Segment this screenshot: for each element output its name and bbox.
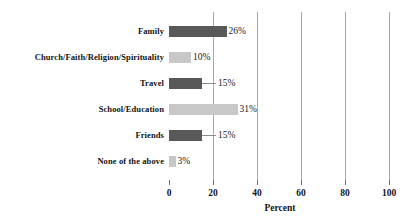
- category-label-church: Church/Faith/Religion/Spirituality: [0, 52, 164, 62]
- value-label-friends: 15%: [216, 130, 235, 141]
- tick-mark-100: [389, 180, 390, 185]
- category-label-family: Family: [0, 26, 164, 36]
- category-label-friends: Friends: [0, 130, 164, 140]
- bar-travel: [169, 78, 202, 89]
- tick-label-0: 0: [154, 188, 184, 199]
- bar-chart: Family 26% Church/Faith/Religion/Spiritu…: [0, 0, 416, 224]
- tick-mark-60: [301, 180, 302, 185]
- bar-row-travel: Travel 15%: [0, 70, 416, 96]
- bar-none: [169, 156, 176, 167]
- value-label-none: 3%: [176, 156, 191, 167]
- bar-group-family: 26%: [169, 18, 246, 44]
- category-label-school: School/Education: [0, 104, 164, 114]
- value-label-church: 10%: [191, 52, 210, 63]
- tick-label-60: 60: [286, 188, 316, 199]
- value-label-school: 31%: [238, 104, 257, 115]
- category-label-travel: Travel: [0, 78, 164, 88]
- category-label-none: None of the above: [0, 156, 164, 166]
- tick-mark-80: [345, 180, 346, 185]
- bar-family: [169, 26, 227, 37]
- value-label-family: 26%: [227, 26, 246, 37]
- bar-church: [169, 52, 191, 63]
- tick-mark-20: [213, 180, 214, 185]
- tick-label-80: 80: [330, 188, 360, 199]
- bar-group-school: 31%: [169, 96, 257, 122]
- tick-label-20: 20: [198, 188, 228, 199]
- tick-mark-40: [257, 180, 258, 185]
- bar-row-friends: Friends 15%: [0, 122, 416, 148]
- x-axis-title: Percent: [169, 203, 391, 214]
- bar-friends: [169, 130, 202, 141]
- tick-label-100: 100: [374, 188, 404, 199]
- bar-school: [169, 104, 238, 115]
- bar-row-school: School/Education 31%: [0, 96, 416, 122]
- bar-group-church: 10%: [169, 44, 210, 70]
- value-label-travel: 15%: [216, 78, 235, 89]
- leader-line-travel: [202, 83, 216, 84]
- tick-mark-0: [169, 180, 170, 185]
- bar-group-friends: 15%: [169, 122, 235, 148]
- leader-line-friends: [202, 135, 216, 136]
- bar-row-family: Family 26%: [0, 18, 416, 44]
- tick-label-40: 40: [242, 188, 272, 199]
- bar-group-none: 3%: [169, 148, 190, 174]
- bar-group-travel: 15%: [169, 70, 235, 96]
- bar-row-church: Church/Faith/Religion/Spirituality 10%: [0, 44, 416, 70]
- bar-row-none: None of the above 3%: [0, 148, 416, 174]
